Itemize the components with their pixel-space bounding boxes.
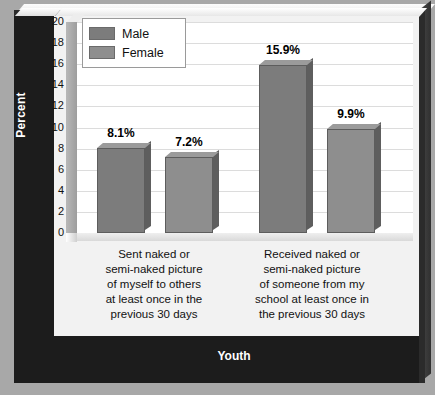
y-axis-wall-foot [66,233,77,242]
y-axis-tick-label: 18 [42,37,64,48]
bar-female-0 [165,157,213,233]
category-label-line: previous 30 days [84,307,224,322]
legend-label-female: Female [122,46,164,60]
y-axis-tick-label: 20 [42,16,64,27]
legend-swatch-male [89,27,115,40]
y-axis-tick-label: 6 [42,164,64,175]
bar-side-face [145,140,151,230]
bar-value-label: 9.9% [317,107,385,121]
bar-value-label: 15.9% [249,43,317,57]
gridline [77,85,413,86]
x-axis-category-label: Received naked orsemi-naked pictureof so… [242,247,382,322]
bar-side-face [375,122,381,230]
legend-swatch-female [89,46,115,59]
category-label-line: Received naked or [242,247,382,262]
bar-value-label: 7.2% [155,135,223,149]
x-axis-category-label: Sent naked orsemi-naked pictureof myself… [84,247,224,322]
y-axis-tick-labels: 20181614121086420 [38,22,64,233]
category-label-line: semi-naked picture [84,262,224,277]
y-axis-tick-label: 16 [42,58,64,69]
category-label-line: at least once in the [84,292,224,307]
y-axis-tick-label: 8 [42,143,64,154]
category-label-line: Sent naked or [84,247,224,262]
y-axis-tick-label: 4 [42,185,64,196]
y-axis-tick-label: 10 [42,122,64,133]
bar-front-face [165,157,213,233]
category-label-line: the previous 30 days [242,307,382,322]
bar-front-face [259,65,307,233]
bar-side-face [307,58,313,230]
y-axis-tick-label: 14 [42,79,64,90]
bar-female-1 [327,129,375,233]
category-label-line: school at least once in [242,292,382,307]
plot-floor [77,233,413,241]
category-label-line: of someone from my [242,277,382,292]
y-axis-wall [66,22,77,233]
y-axis-tick-label: 12 [42,100,64,111]
bar-male-0 [97,148,145,233]
chart-figure: Percent Youth 8.1%7.2%15.9%9.9% 20181614… [0,0,435,395]
legend-item-male: Male [89,24,179,43]
x-axis-title: Youth [54,349,414,363]
legend-item-female: Female [89,43,179,62]
y-axis-tick-label: 2 [42,206,64,217]
category-label-line: semi-naked picture [242,262,382,277]
y-axis-tick-label: 0 [42,227,64,238]
bar-front-face [327,129,375,233]
category-label-line: of myself to others [84,277,224,292]
bar-front-face [97,148,145,233]
bar-value-label: 8.1% [87,126,155,140]
bar-side-face [213,150,219,230]
chart-legend: Male Female [82,18,186,68]
y-axis-title: Percent [14,60,28,170]
bar-male-1 [259,65,307,233]
legend-label-male: Male [122,27,149,41]
